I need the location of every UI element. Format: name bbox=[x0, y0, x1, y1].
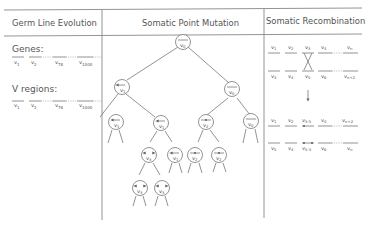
svg-text:v5: v5 bbox=[305, 73, 311, 80]
svg-text:vn: vn bbox=[347, 44, 353, 51]
svg-text:v2: v2 bbox=[288, 44, 294, 51]
tree-node-root: v0 bbox=[176, 35, 191, 50]
germ-line-panel: Genes: v1 v2 v78 v1000 V regions: v1 v2 bbox=[12, 44, 101, 110]
svg-text:v5-3: v5-3 bbox=[302, 145, 312, 152]
tree-node-RLR: v2 bbox=[212, 148, 227, 163]
gene-v1: v1 bbox=[14, 59, 20, 67]
genes-row: v1 v2 v78 v1000 bbox=[12, 57, 101, 67]
svg-text:v4: v4 bbox=[288, 145, 294, 152]
tree-node-LR: v1 bbox=[154, 116, 169, 131]
tree-node-LRLL: v3 bbox=[133, 181, 148, 196]
tree-node-RLL: v2 bbox=[188, 148, 203, 163]
crossover-mark bbox=[304, 53, 312, 70]
vregions-label: V regions: bbox=[12, 84, 57, 94]
vregions-row: v1 v2 v78 v1000 bbox=[12, 101, 101, 110]
vregion-v1: v1 bbox=[14, 102, 20, 110]
header-germ-line: Germ Line Evolution bbox=[12, 18, 97, 28]
svg-text:v4: v4 bbox=[321, 44, 327, 51]
tree-node-LRL: v3 bbox=[142, 148, 157, 163]
gene-v78: v78 bbox=[55, 59, 64, 67]
tree-node-LRR: v1 bbox=[168, 148, 183, 163]
tree-edges bbox=[100, 47, 258, 206]
recomb-after-top: v1 v2 v3-5 v4 vn+2 bbox=[268, 117, 358, 127]
genes-label: Genes: bbox=[12, 44, 43, 54]
tree-node-LL: v1 bbox=[109, 115, 124, 130]
svg-text:v2: v2 bbox=[288, 117, 294, 124]
vregion-v78: v78 bbox=[55, 102, 64, 110]
svg-text:v3-5: v3-5 bbox=[302, 117, 312, 124]
tree-node-RL: v2 bbox=[199, 115, 214, 130]
recomb-before-bottom: v3 v4 v5 v6 vn+2 bbox=[268, 71, 358, 80]
svg-text:v4: v4 bbox=[288, 73, 294, 80]
svg-text:v5: v5 bbox=[271, 145, 277, 152]
svg-text:v6: v6 bbox=[321, 145, 327, 152]
svg-text:vn+2: vn+2 bbox=[344, 73, 356, 80]
recombination-panel: v1 v2 v3 v4 vn v3 v4 v5 bbox=[268, 44, 358, 152]
gene-v1000: v1000 bbox=[79, 59, 93, 67]
recomb-after-bottom: v5 v4 v5-3 v6 vn bbox=[268, 142, 358, 152]
header-recombination: Somatic Recombination bbox=[266, 16, 365, 26]
tree-node-RR: v0 bbox=[244, 114, 259, 129]
vregion-v2: v2 bbox=[31, 102, 37, 110]
recomb-before-top: v1 v2 v3 v4 vn bbox=[268, 44, 358, 53]
vregion-v1000: v1000 bbox=[79, 102, 93, 110]
point-mutation-tree: v0 v1 v0 v1 v1 v2 bbox=[100, 35, 259, 207]
tree-node-LRLR: v3 bbox=[155, 181, 170, 196]
tree-node-R: v0 bbox=[225, 82, 240, 97]
svg-text:v6: v6 bbox=[321, 73, 327, 80]
svg-text:v3: v3 bbox=[305, 44, 311, 51]
gene-v2: v2 bbox=[31, 59, 37, 67]
svg-text:vn: vn bbox=[347, 145, 353, 152]
svg-text:vn+2: vn+2 bbox=[342, 117, 354, 124]
diagram-canvas: Germ Line Evolution Somatic Point Mutati… bbox=[0, 0, 367, 226]
svg-text:v3: v3 bbox=[271, 73, 277, 80]
tree-node-L: v1 bbox=[115, 80, 130, 95]
svg-text:v1: v1 bbox=[271, 117, 277, 124]
header-point-mutation: Somatic Point Mutation bbox=[142, 18, 239, 28]
svg-text:v1: v1 bbox=[271, 44, 277, 51]
svg-text:v4: v4 bbox=[321, 117, 327, 124]
